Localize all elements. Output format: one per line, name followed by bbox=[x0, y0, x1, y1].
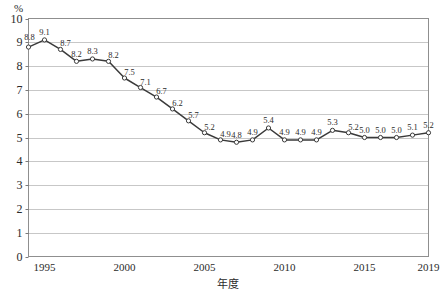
x-tick-label: 2000 bbox=[114, 261, 137, 273]
data-point-label: 5.2 bbox=[348, 122, 359, 132]
data-point-marker bbox=[282, 138, 286, 142]
y-tick-label: 7 bbox=[17, 83, 23, 97]
data-point-label: 7.1 bbox=[140, 77, 151, 87]
data-point-label: 5.0 bbox=[359, 125, 370, 135]
data-point-label: 9.1 bbox=[39, 27, 50, 37]
y-tick-label: 3 bbox=[17, 178, 23, 192]
x-tick-label: 2015 bbox=[354, 261, 377, 273]
x-tick-label: 2019 bbox=[418, 261, 441, 273]
data-point-label: 5.3 bbox=[327, 117, 338, 127]
data-point-label: 5.7 bbox=[188, 110, 199, 120]
data-point-label: 4.9 bbox=[247, 127, 258, 137]
y-tick-label: 2 bbox=[17, 202, 23, 216]
line-chart: % 012345678910 199520002005201020152019 … bbox=[0, 0, 445, 294]
data-point-label: 6.2 bbox=[172, 98, 183, 108]
data-point-label: 5.0 bbox=[391, 125, 402, 135]
data-point-label: 5.0 bbox=[375, 125, 386, 135]
x-tick-label: 1995 bbox=[34, 261, 57, 273]
data-point-label: 5.2 bbox=[204, 122, 215, 132]
data-point-label: 4.8 bbox=[231, 130, 242, 140]
data-point-label: 4.9 bbox=[295, 127, 306, 137]
data-point-label: 6.7 bbox=[156, 86, 167, 96]
data-point-marker bbox=[378, 135, 382, 139]
data-point-marker bbox=[394, 135, 398, 139]
y-tick-label: 5 bbox=[17, 131, 23, 145]
data-point-marker bbox=[234, 140, 238, 144]
y-tick-label: 8 bbox=[17, 59, 23, 73]
data-point-label: 4.9 bbox=[311, 127, 322, 137]
x-tick-label: 2005 bbox=[194, 261, 217, 273]
y-tick-label: 6 bbox=[17, 107, 23, 121]
data-point-marker bbox=[26, 45, 30, 49]
data-point-label: 8.8 bbox=[24, 32, 35, 42]
data-point-label: 5.4 bbox=[263, 115, 274, 125]
data-point-label: 5.1 bbox=[407, 122, 418, 132]
data-point-label: 8.2 bbox=[71, 49, 82, 59]
data-point-marker bbox=[42, 38, 46, 42]
data-point-marker bbox=[426, 131, 430, 135]
data-point-label: 5.2 bbox=[423, 120, 434, 130]
data-point-label: 4.9 bbox=[220, 129, 231, 139]
data-point-marker bbox=[90, 57, 94, 61]
data-point-label: 8.2 bbox=[108, 50, 119, 60]
data-point-label: 8.7 bbox=[60, 38, 71, 48]
data-point-label: 7.5 bbox=[124, 67, 135, 77]
y-tick-label: 0 bbox=[17, 250, 23, 264]
data-point-marker bbox=[298, 138, 302, 142]
data-point-marker bbox=[330, 128, 334, 132]
data-point-marker bbox=[266, 126, 270, 130]
data-point-label: 4.9 bbox=[279, 127, 290, 137]
data-point-marker bbox=[250, 138, 254, 142]
data-point-marker bbox=[410, 133, 414, 137]
x-axis-title: 年度 bbox=[217, 277, 239, 290]
y-tick-label: 4 bbox=[17, 154, 23, 168]
data-point-marker bbox=[314, 138, 318, 142]
y-tick-label: 1 bbox=[17, 226, 23, 240]
data-point-label: 8.3 bbox=[87, 46, 98, 56]
x-tick-label: 2010 bbox=[274, 261, 297, 273]
y-tick-label: 9 bbox=[17, 35, 23, 49]
data-point-marker bbox=[74, 59, 78, 63]
y-tick-label: 10 bbox=[11, 12, 23, 26]
data-point-marker bbox=[362, 135, 366, 139]
